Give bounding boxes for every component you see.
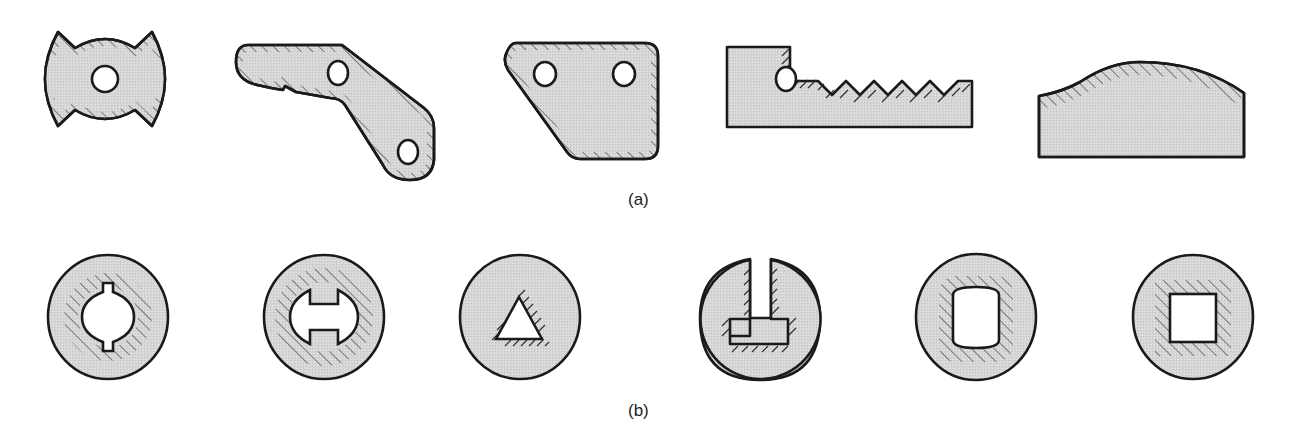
hole-icon [328, 61, 348, 85]
caption-a: (a) [628, 190, 649, 210]
hole-icon [776, 67, 796, 91]
hole-icon [92, 66, 118, 92]
shape-b6-square-hole [1133, 255, 1253, 379]
shape-a3-trapezoid-plate [505, 43, 658, 159]
shape-a4-serrated-rack [727, 47, 972, 127]
shape-b1-keyed-bore [48, 255, 168, 379]
figure-canvas [0, 0, 1291, 437]
caption-b: (b) [628, 401, 649, 421]
hole-icon [613, 62, 635, 86]
hole-icon [534, 62, 556, 86]
shape-a5-contoured-block [1039, 62, 1244, 157]
shape-b2-double-d-bore [264, 255, 384, 379]
shape-a1-notched-blank [40, 32, 170, 126]
shape-a2-bent-lever [236, 45, 434, 180]
shape-b5-rounded-rect-hole [916, 254, 1036, 380]
shape-b4-t-slot [700, 259, 821, 380]
shape-b3-triangle-hole [460, 255, 580, 379]
hole-icon [398, 140, 418, 164]
